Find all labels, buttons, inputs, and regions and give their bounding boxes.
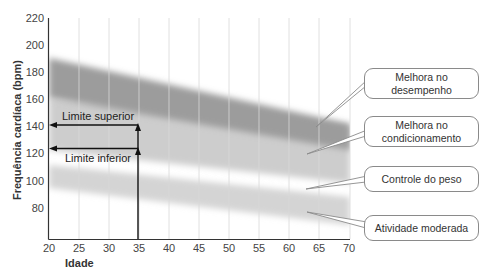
- y-tick: 220: [26, 12, 44, 24]
- x-tick: 55: [253, 242, 265, 254]
- x-tick: 35: [133, 242, 145, 254]
- y-tick: 80: [32, 202, 44, 214]
- y-tick-labels: 220 200 180 160 140 120 100 80: [26, 12, 44, 214]
- x-tick: 65: [313, 242, 325, 254]
- x-tick: 50: [223, 242, 235, 254]
- y-tick: 120: [26, 147, 44, 159]
- y-tick: 100: [26, 175, 44, 187]
- limite-superior-label: Limite superior: [62, 110, 134, 122]
- x-tick: 60: [283, 242, 295, 254]
- y-tick: 160: [26, 93, 44, 105]
- callout-text: condicionamento: [382, 132, 461, 145]
- callout-text: Melhora no: [382, 119, 461, 132]
- y-tick: 180: [26, 66, 44, 78]
- callout-text: Atividade moderada: [375, 222, 468, 235]
- limite-inferior-label: Limite inferior: [65, 152, 131, 164]
- callout-melhora-desempenho: Melhora nodesempenho: [364, 68, 479, 99]
- callout-text: Controle do peso: [382, 173, 462, 186]
- x-tick: 40: [163, 242, 175, 254]
- zone-bands: [49, 58, 350, 225]
- x-tick-labels: 20 25 30 35 40 45 50 55 60 65 70: [43, 242, 355, 254]
- callout-text: desempenho: [391, 84, 452, 97]
- x-tick: 30: [103, 242, 115, 254]
- y-axis-label: Frequência cardíaca (bpm): [11, 60, 23, 200]
- callout-melhora-condicionamento: Melhora nocondicionamento: [364, 116, 479, 147]
- y-tick: 200: [26, 39, 44, 51]
- y-tick: 140: [26, 120, 44, 132]
- x-tick: 45: [193, 242, 205, 254]
- x-tick: 70: [343, 242, 355, 254]
- x-axis-label: Idade: [65, 257, 94, 269]
- callout-text: Melhora no: [391, 71, 452, 84]
- callout-controle-peso: Controle do peso: [364, 166, 479, 192]
- x-tick: 25: [73, 242, 85, 254]
- callout-atividade-moderada: Atividade moderada: [364, 215, 479, 241]
- x-tick: 20: [43, 242, 55, 254]
